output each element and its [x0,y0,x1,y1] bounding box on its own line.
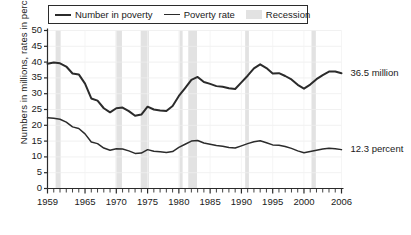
legend-line-swatch-poverty-rate [164,14,180,15]
y-tick-label-0: 0 [18,182,42,193]
y-tick-label-35: 35 [18,71,42,82]
y-tick-label-15: 15 [18,135,42,146]
chart-legend: Number in poverty Poverty rate Recession [48,5,308,24]
legend-label-recession: Recession [266,9,310,20]
x-tick-label-1959: 1959 [28,196,68,207]
end-label-number-in-poverty: 36.5 million [351,67,399,78]
legend-item-recession: Recession [246,9,310,20]
x-tick-label-2000: 2000 [284,196,324,207]
legend-item-number-in-poverty: Number in poverty [55,9,153,20]
legend-label-poverty-rate: Poverty rate [184,9,235,20]
y-tick-label-25: 25 [18,103,42,114]
legend-item-poverty-rate: Poverty rate [164,9,235,20]
end-label-poverty-rate: 12.3 percent [351,143,404,154]
y-tick-label-40: 40 [18,56,42,67]
y-tick-label-50: 50 [18,24,42,35]
legend-line-swatch-number-in-poverty [55,14,71,16]
y-tick-label-20: 20 [18,119,42,130]
legend-band-swatch-recession [246,10,262,19]
poverty-chart-figure: Number in poverty Poverty rate Recession… [0,0,411,235]
x-tick-label-2006: 2006 [322,196,362,207]
y-tick-label-30: 30 [18,87,42,98]
y-tick-label-45: 45 [18,40,42,51]
x-axis-ticks [48,189,342,194]
legend-label-number-in-poverty: Number in poverty [75,9,153,20]
y-tick-label-10: 10 [18,150,42,161]
y-tick-label-5: 5 [18,166,42,177]
